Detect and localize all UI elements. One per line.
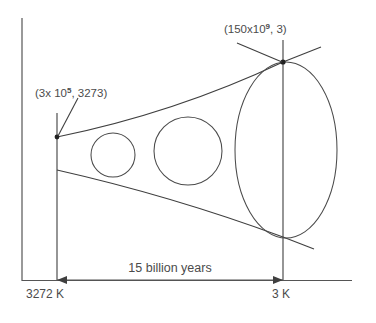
universe-cone-diagram: (3x 105, 3273) (150x109, 3) 15 billion y… [0, 0, 376, 323]
sphere-large-ellipse [235, 62, 337, 238]
left-point-annotation: (3x 105, 3273) [35, 86, 107, 99]
cone-lower-edge-extension [283, 237, 314, 249]
cone-upper-edge [57, 62, 283, 137]
right-tick-label: 3 K [272, 287, 290, 301]
span-label: 15 billion years [128, 261, 211, 275]
left-tick-label: 3272 K [26, 287, 64, 301]
right-point-prefix: (150x10 [224, 23, 266, 35]
sphere-medium [154, 117, 222, 185]
sphere-small [91, 133, 135, 177]
span-arrow-left-icon [57, 276, 67, 284]
diagram-canvas: (3x 105, 3273) (150x109, 3) 15 billion y… [0, 0, 376, 323]
left-label-leader-line [58, 98, 78, 136]
span-arrow-right-icon [273, 276, 283, 284]
cone-upper-edge-extension [283, 47, 321, 62]
right-point-annotation: (150x109, 3) [224, 22, 287, 35]
right-point-suffix: , 3) [270, 23, 287, 35]
left-point-suffix: , 3273) [71, 87, 107, 99]
right-label-leader-line [237, 43, 282, 62]
left-point-prefix: (3x 10 [35, 87, 67, 99]
